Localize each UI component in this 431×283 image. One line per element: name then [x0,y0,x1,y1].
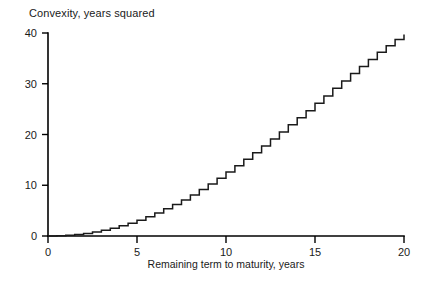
data-series-convexity [48,35,404,236]
x-axis-ticks [48,236,404,243]
y-tick-label-0: 0 [31,230,37,242]
convexity-step-chart: 010203040 05101520 Remaining term to mat… [0,0,431,283]
x-tick-label-10: 10 [220,246,232,258]
x-tick-label-5: 5 [134,246,140,258]
x-tick-label-15: 15 [309,246,321,258]
y-tick-label-10: 10 [25,179,37,191]
x-tick-label-20: 20 [398,246,410,258]
y-axis-ticks [42,33,48,236]
y-tick-label-40: 40 [25,27,37,39]
chart-figure: Convexity, years squared 010203040 05101… [0,0,431,283]
x-axis-tick-labels: 05101520 [45,246,410,258]
x-tick-label-0: 0 [45,246,51,258]
y-axis-tick-labels: 010203040 [25,27,37,242]
x-axis-title: Remaining term to maturity, years [148,258,305,270]
y-tick-label-20: 20 [25,129,37,141]
y-tick-label-30: 30 [25,78,37,90]
